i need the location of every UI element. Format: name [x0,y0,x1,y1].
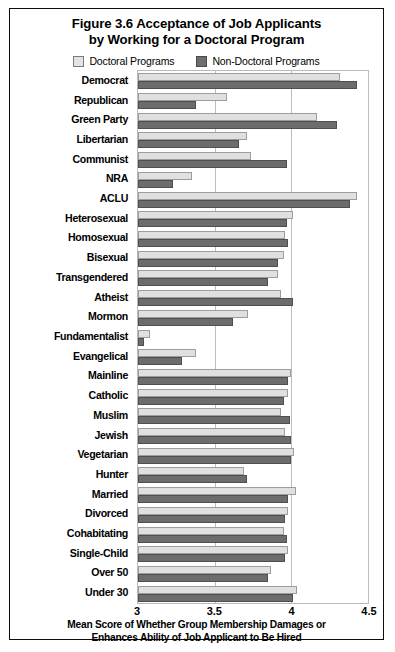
bar-non-doctoral [138,318,233,326]
category-label: Jewish [94,429,128,441]
category-label: Catholic [89,389,128,401]
category-label: Divorced [85,507,128,519]
bar-doctoral [138,389,288,397]
bar-non-doctoral [138,554,285,562]
bar-non-doctoral [138,397,284,405]
category-label: Mainline [88,369,128,381]
bar-doctoral [138,270,278,278]
category-label: Over 50 [91,566,128,578]
category-label: Fundamentalist [54,330,128,342]
figure-title-line1: Figure 3.6 Acceptance of Job Applicants [72,16,321,31]
x-tick-label: 4 [289,605,295,617]
category-label: Single-Child [70,547,128,559]
category-label: Green Party [71,113,128,125]
bar-doctoral [138,428,285,436]
gridline [368,71,369,603]
x-axis-title-line1: Mean Score of Whether Group Membership D… [67,619,325,630]
bar-non-doctoral [138,594,293,602]
bar-non-doctoral [138,278,268,286]
bar-doctoral [138,192,357,200]
category-label: Under 30 [85,586,128,598]
bar-doctoral [138,487,296,495]
bar-non-doctoral [138,515,285,523]
legend-label-non-doctoral: Non-Doctoral Programs [212,55,319,67]
bar-non-doctoral [138,535,287,543]
bar-doctoral [138,93,227,101]
bar-doctoral [138,369,291,377]
gridline [291,71,292,603]
bar-doctoral [138,231,285,239]
bar-doctoral [138,73,340,81]
bar-doctoral [138,586,297,594]
bar-doctoral [138,330,150,338]
category-label: Married [92,488,128,500]
bar-doctoral [138,152,251,160]
bar-non-doctoral [138,81,357,89]
bar-non-doctoral [138,219,287,227]
bar-doctoral [138,290,281,298]
page-title: Figure 3.6 Acceptance of Job Applicants … [24,16,369,48]
bar-doctoral [138,172,192,180]
bar-non-doctoral [138,180,173,188]
figure-frame: Figure 3.6 Acceptance of Job Applicants … [9,8,384,640]
bar-non-doctoral [138,475,247,483]
bar-non-doctoral [138,416,290,424]
bar-non-doctoral [138,140,239,148]
bar-non-doctoral [138,298,293,306]
bar-non-doctoral [138,259,278,267]
legend-item-doctoral: Doctoral Programs [73,55,174,67]
bar-doctoral [138,310,248,318]
category-label: Evangelical [73,350,128,362]
legend-label-doctoral: Doctoral Programs [89,55,174,67]
bar-non-doctoral [138,574,268,582]
bar-non-doctoral [138,160,287,168]
category-label: Vegetarian [77,448,128,460]
category-label: Mormon [88,310,128,322]
category-label: ACLU [100,192,128,204]
legend-item-non-doctoral: Non-Doctoral Programs [196,55,319,67]
bar-non-doctoral [138,357,182,365]
bar-doctoral [138,527,284,535]
bar-chart: DemocratRepublicanGreen PartyLibertarian… [24,70,369,604]
category-axis-labels: DemocratRepublicanGreen PartyLibertarian… [24,70,132,604]
bar-doctoral [138,113,317,121]
bar-doctoral [138,349,196,357]
bar-non-doctoral [138,377,288,385]
category-label: Hunter [96,468,128,480]
bar-doctoral [138,251,284,259]
category-label: Heterosexual [65,212,128,224]
bar-doctoral [138,448,294,456]
x-axis-title: Mean Score of Whether Group Membership D… [30,619,363,644]
legend-swatch-icon-non-doctoral [196,56,207,67]
plot-area [137,70,369,604]
bar-non-doctoral [138,456,291,464]
chart-legend: Doctoral Programs Non-Doctoral Programs [10,55,383,67]
x-tick-label: 3 [134,605,140,617]
bar-non-doctoral [138,200,350,208]
bar-non-doctoral [138,101,196,109]
bar-non-doctoral [138,239,288,247]
category-label: NRA [106,172,128,184]
bar-doctoral [138,408,281,416]
bar-non-doctoral [138,495,288,503]
category-label: Democrat [82,74,128,86]
x-axis-title-line2: Enhances Ability of Job Applicant to Be … [30,632,363,645]
category-label: Homosexual [68,231,128,243]
legend-swatch-icon-doctoral [73,56,84,67]
category-label: Bisexual [87,251,128,263]
bar-non-doctoral [138,436,291,444]
x-tick-label: 3.5 [207,605,222,617]
bar-non-doctoral [138,338,144,346]
figure-title-line2: by Working for a Doctoral Program [24,32,369,48]
category-label: Republican [74,94,128,106]
x-axis-ticks: 33.544.5 [137,604,369,619]
bar-doctoral [138,132,247,140]
x-tick-label: 4.5 [361,605,376,617]
plot-wrapper: DemocratRepublicanGreen PartyLibertarian… [24,70,369,644]
category-label: Atheist [94,291,128,303]
bar-doctoral [138,546,288,554]
bar-doctoral [138,211,293,219]
category-label: Cohabitating [67,527,128,539]
bar-doctoral [138,507,288,515]
category-label: Muslim [93,409,128,421]
